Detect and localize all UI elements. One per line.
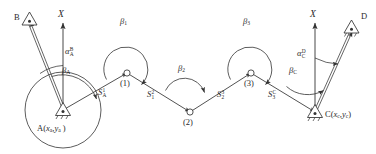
s-23-sub: 2: [222, 95, 225, 100]
angle-arc-beta-2: [166, 78, 205, 92]
station-dot-C: [314, 112, 317, 115]
station-label-d: D: [361, 12, 367, 21]
s-12-sub: 1: [152, 95, 155, 100]
station-label-a: A(xa,ya ): [37, 124, 66, 134]
joint-label-2: (2): [183, 118, 193, 127]
joint-node-1: [124, 70, 130, 76]
station-marker-C: [308, 105, 323, 118]
s-3c-sub: 3: [273, 95, 277, 100]
station-label-c: C(xc,yc): [325, 110, 351, 120]
joint-label-3: (3): [244, 79, 254, 88]
beta-1-sub: 1: [124, 20, 127, 26]
angle-label-beta-1: β1: [120, 17, 127, 27]
station-marker-D: [344, 20, 359, 33]
distance-label-s-a1: S1A: [98, 88, 106, 98]
distance-label-s-23: S32: [217, 90, 224, 100]
bearing-label-alpha-cd: αDC: [297, 49, 306, 59]
angle-label-beta-a: βA: [62, 66, 70, 76]
station-dot-B: [28, 20, 31, 23]
joint-node-3: [248, 70, 254, 76]
beta-2-sub: 2: [182, 67, 185, 73]
angle-arc-alpha-CD: [315, 58, 338, 64]
alpha-ab-sub: A: [70, 52, 74, 57]
axis-label-x-left: X: [58, 10, 64, 20]
leg-3-C: [251, 73, 315, 112]
distance-label-s-12: S21: [147, 90, 154, 100]
station-dot-D: [350, 28, 353, 31]
angle-label-beta-3: β3: [243, 17, 250, 27]
sight-line-AB-2: [30, 22, 64, 108]
station-label-b: B: [14, 13, 20, 22]
station-marker-A: [56, 103, 71, 116]
axis-label-x-right: X: [310, 10, 316, 20]
sight-line-CD-1: [314, 31, 350, 111]
station-c-close-paren: ): [348, 109, 351, 119]
sight-line-CD-2: [317, 32, 353, 112]
sight-line-AB-1: [28, 23, 62, 109]
angle-arc-beta-A: [52, 75, 97, 99]
leg-A-1: [63, 73, 127, 110]
angle-label-beta-2: β2: [178, 64, 185, 74]
traverse-diagram-figure: X X B D αBA αDC βA β1 β2 β3 βC S1A S21 S…: [0, 0, 376, 154]
alpha-cd-sub: C: [302, 54, 306, 59]
station-a-close-paren: ): [61, 123, 66, 133]
beta-3-sub: 3: [247, 20, 250, 26]
beta-c-sub: C: [293, 69, 297, 75]
station-marker-B: [22, 12, 37, 25]
angle-arc-beta-C: [287, 87, 324, 95]
angle-label-beta-c: βC: [289, 66, 297, 76]
distance-label-s-3c: SC3: [268, 90, 276, 100]
bearing-label-alpha-ab: αBA: [65, 47, 74, 57]
joint-node-2: [187, 109, 193, 115]
s-a1-sub: A: [103, 93, 107, 98]
joint-label-1: (1): [120, 79, 130, 88]
station-dot-A: [62, 110, 65, 113]
beta-a-sub: A: [66, 69, 70, 75]
